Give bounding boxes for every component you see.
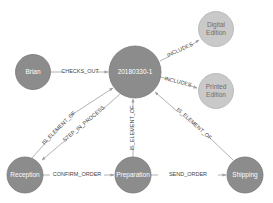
edge-line — [155, 92, 178, 112]
edge-confirm-order[interactable]: CONFIRM_ORDER — [43, 171, 114, 177]
node-brian[interactable]: Brian — [16, 55, 51, 90]
node-label-shipping: Shipping — [232, 171, 258, 179]
edge-preparation-is-element-of[interactable]: IS_ELEMENT_OF — [129, 99, 135, 157]
edge-includes-printed[interactable]: INCLUDES — [160, 75, 197, 88]
edge-label-reception-is-element-of: IS_ELEMENT_OF — [41, 109, 77, 145]
node-shipping[interactable]: Shipping — [227, 157, 263, 193]
node-label-printed-line1: Printed — [206, 83, 227, 90]
edge-label-confirm-order: CONFIRM_ORDER — [53, 171, 102, 177]
edge-reception-is-element-of[interactable]: IS_ELEMENT_OF — [32, 88, 113, 158]
edge-includes-digital[interactable]: INCLUDES — [160, 40, 199, 61]
edge-checks-out[interactable]: CHECKS_OUT — [51, 68, 108, 74]
graph-canvas: CHECKS_OUT INCLUDES INCLUDES IS_ELEMENT_… — [0, 0, 273, 203]
edge-send-order[interactable]: SEND_ORDER — [151, 171, 226, 177]
node-label-printed-line2: Edition — [206, 91, 226, 98]
node-label-reception: Reception — [10, 171, 40, 179]
node-label-preparation: Preparation — [116, 171, 150, 179]
node-reception[interactable]: Reception — [7, 157, 43, 193]
node-label-digital-line2: Edition — [206, 29, 226, 36]
edge-label-includes-printed: INCLUDES — [164, 75, 193, 88]
node-label-order: 20180330-1 — [118, 68, 153, 75]
edge-label-checks-out: CHECKS_OUT — [61, 68, 99, 74]
node-preparation[interactable]: Preparation — [115, 157, 151, 193]
edge-label-includes-digital: INCLUDES — [166, 41, 194, 58]
edge-line — [210, 138, 233, 160]
edge-label-shipping-is-element-of: IS_ELEMENT_OF — [176, 106, 214, 141]
node-printed-edition[interactable]: Printed Edition — [199, 74, 234, 109]
edge-label-step-in-process: STEP_IN_PROCESS — [61, 104, 106, 143]
edge-label-send-order: SEND_ORDER — [169, 171, 207, 177]
node-label-brian: Brian — [25, 68, 41, 75]
node-digital-edition[interactable]: Digital Edition — [199, 12, 234, 47]
edge-label-preparation-is-element-of: IS_ELEMENT_OF — [129, 105, 135, 151]
node-order[interactable]: 20180330-1 — [109, 46, 161, 98]
